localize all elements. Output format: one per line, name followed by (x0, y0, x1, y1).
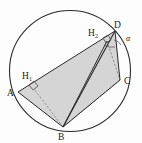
vertex-label-b: B (58, 132, 64, 142)
angle-label-alpha: α (126, 34, 131, 43)
vertex-label-d: D (114, 20, 121, 30)
foot-label-h2-subscript: 2 (95, 33, 98, 39)
vertex-label-c: C (124, 76, 130, 86)
geometry-figure: A B C D H 1 H 2 α (0, 0, 142, 143)
foot-label-h1: H (22, 71, 29, 81)
foot-label-h1-subscript: 1 (29, 76, 32, 82)
vertex-label-a: A (7, 88, 14, 98)
geometry-canvas: A B C D H 1 H 2 α (0, 0, 142, 143)
foot-label-h2: H (88, 28, 95, 38)
